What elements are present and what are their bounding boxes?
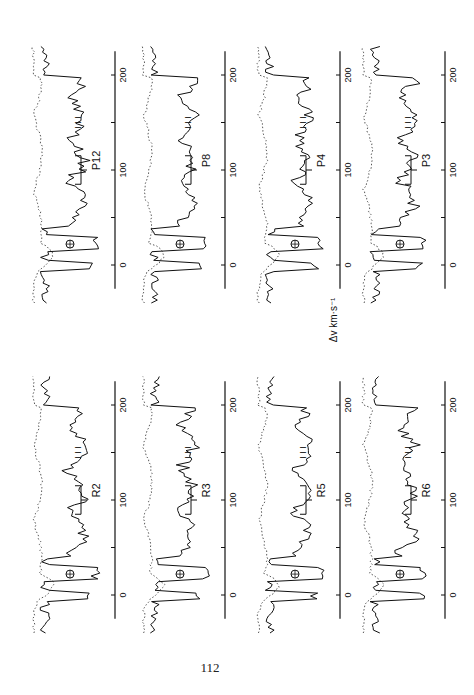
tick-label: 0 <box>118 592 128 597</box>
panel-p3: 0100200P3I I I <box>362 47 458 304</box>
comparison-profile <box>32 47 53 304</box>
comparison-profile <box>362 377 384 634</box>
tick-label: 100 <box>448 492 458 507</box>
tick-label: 100 <box>343 492 353 507</box>
tick-label: 100 <box>448 162 458 177</box>
panel-label: R6 <box>420 483 432 497</box>
tick-label: 100 <box>118 162 128 177</box>
panel-label: P3 <box>420 154 432 167</box>
bracket-mark <box>405 486 417 515</box>
tick-label: 200 <box>343 397 353 412</box>
figure-panels: 0100200P12I I I0100200P8I I I0100200P4I … <box>0 0 474 695</box>
comparison-profile <box>142 47 164 304</box>
bracket-mark <box>75 486 87 515</box>
panel-label: P4 <box>315 154 327 167</box>
comparison-profile <box>257 377 279 634</box>
comparison-profile <box>32 377 53 634</box>
comparison-profile <box>362 47 383 304</box>
tick-label: 0 <box>448 262 458 267</box>
tick-label: 200 <box>228 397 238 412</box>
component-marks: I I I <box>183 116 193 129</box>
component-marks: I I I <box>73 446 83 459</box>
tick-label: 0 <box>343 262 353 267</box>
tick-label: 100 <box>343 162 353 177</box>
tick-label: 0 <box>228 592 238 597</box>
tick-label: 200 <box>118 397 128 412</box>
observed-profile <box>40 377 100 634</box>
observed-profile <box>370 377 426 634</box>
tick-label: 0 <box>343 592 353 597</box>
bracket-mark <box>185 486 197 515</box>
tick-label: 100 <box>228 492 238 507</box>
panel-r3: 0100200R3I I I <box>142 377 238 634</box>
tick-label: 200 <box>118 67 128 82</box>
tick-label: 200 <box>448 397 458 412</box>
panel-label: P12 <box>90 151 102 171</box>
component-marks: I I I <box>403 446 413 459</box>
panel-label: R2 <box>90 483 102 497</box>
tick-label: 0 <box>448 592 458 597</box>
panel-label: R3 <box>200 483 212 497</box>
panel-label: R5 <box>315 483 327 497</box>
panel-p4: 0100200P4I I I <box>257 47 353 304</box>
observed-profile <box>370 47 426 304</box>
panel-p12: 0100200P12I I I <box>32 47 128 304</box>
tick-label: 0 <box>228 262 238 267</box>
comparison-profile <box>142 377 165 634</box>
tick-label: 100 <box>228 162 238 177</box>
component-marks: I I I <box>298 116 308 129</box>
page-number: 112 <box>180 660 240 676</box>
observed-profile <box>265 377 324 634</box>
panel-r6: 0100200R6I I I <box>362 377 458 634</box>
tick-label: 200 <box>343 67 353 82</box>
observed-profile <box>40 47 98 304</box>
tick-label: 100 <box>118 492 128 507</box>
bracket-mark <box>185 156 197 185</box>
component-marks: I I I <box>298 446 308 459</box>
panel-label: P8 <box>200 154 212 167</box>
observed-profile <box>150 47 206 304</box>
tick-label: 0 <box>118 262 128 267</box>
tick-label: 200 <box>228 67 238 82</box>
panel-p8: 0100200P8I I I <box>142 47 238 304</box>
observed-profile <box>265 47 323 304</box>
x-axis-label: Δv km·s⁻¹ <box>328 297 339 342</box>
tick-label: 200 <box>448 67 458 82</box>
comparison-profile <box>257 47 279 304</box>
observed-profile <box>150 377 209 634</box>
panel-r5: 0100200R5I I I <box>257 377 353 634</box>
bracket-mark <box>300 486 312 515</box>
panel-r2: 0100200R2I I I <box>32 377 128 634</box>
